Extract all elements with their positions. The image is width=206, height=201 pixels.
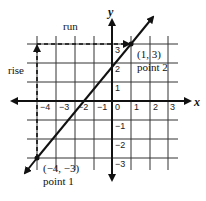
y-axis-label: y <box>106 5 114 19</box>
x-tick: 2 <box>153 102 158 112</box>
point-2-coords: (1, 3) <box>137 48 161 61</box>
point-1-marker <box>35 156 40 161</box>
point-1-coords: (−4, −3) <box>43 162 80 175</box>
y-tick: −1 <box>115 121 125 131</box>
x-tick: −3 <box>59 102 69 112</box>
x-tick: 1 <box>134 102 139 112</box>
y-tick: −2 <box>115 140 125 150</box>
point-2-label: point 2 <box>137 61 168 73</box>
y-tick: 2 <box>115 64 120 74</box>
x-tick: −4 <box>40 102 50 112</box>
x-axis-label: x <box>193 95 200 109</box>
x-tick: −2 <box>78 102 88 112</box>
x-tick: 3 <box>170 102 175 112</box>
point-1-label: point 1 <box>43 175 74 187</box>
x-tick: 0 <box>115 102 120 112</box>
point-2-marker <box>129 42 134 47</box>
y-tick: −3 <box>115 159 125 169</box>
y-tick: 1 <box>115 83 120 93</box>
x-tick: −1 <box>97 102 107 112</box>
y-tick: 3 <box>115 45 120 55</box>
slope-diagram: −4 −3 −2 −1 0 1 2 3 3 2 1 −1 −2 −3 y x r… <box>0 0 206 201</box>
run-label: run <box>63 20 78 32</box>
rise-label: rise <box>8 64 24 76</box>
